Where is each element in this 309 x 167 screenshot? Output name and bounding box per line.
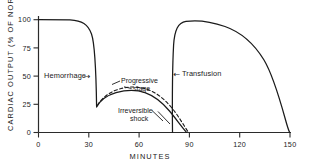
cardiac-output-shock-chart: 0 25 50 75 100 CARDIAC OUTPUT (% OF NORM… <box>0 0 309 167</box>
x-axis-title: MINUTES <box>130 152 171 161</box>
y-axis-title: CARDIAC OUTPUT (% OF NORMAL) <box>6 0 15 131</box>
x-tick-label-60: 60 <box>135 140 144 149</box>
x-tick-label-120: 120 <box>233 140 246 149</box>
annotation-progressive-stage-line2: stage <box>133 85 150 93</box>
y-tick-label-100: 100 <box>18 15 31 24</box>
chart-plot-area: 0 25 50 75 100 CARDIAC OUTPUT (% OF NORM… <box>0 0 309 167</box>
hemorrhage-arrow-icon: → <box>84 72 91 81</box>
progressive-stage-leader-line <box>112 81 120 85</box>
irreversible-shock-leader-line <box>152 111 163 122</box>
annotation-hemorrhage-label: Hemorrhage <box>44 71 86 80</box>
annotation-irreversible-shock-line1: Irreversible <box>118 107 153 114</box>
x-tick-label-30: 30 <box>84 140 93 149</box>
x-tick-label-90: 90 <box>185 140 194 149</box>
y-tick-label-25: 25 <box>22 100 31 109</box>
transfusion-arrow-icon: ← <box>174 70 181 79</box>
x-tick-label-150: 150 <box>284 140 297 149</box>
y-tick-label-75: 75 <box>22 44 31 53</box>
y-tick-label-50: 50 <box>22 72 31 81</box>
y-tick-label-0: 0 <box>27 128 31 137</box>
annotation-irreversible-shock-line2: shock <box>130 115 149 122</box>
annotation-transfusion-label: Transfusion <box>182 69 221 78</box>
x-tick-label-0: 0 <box>36 140 40 149</box>
series-hemorrhage-plateau <box>39 20 97 107</box>
